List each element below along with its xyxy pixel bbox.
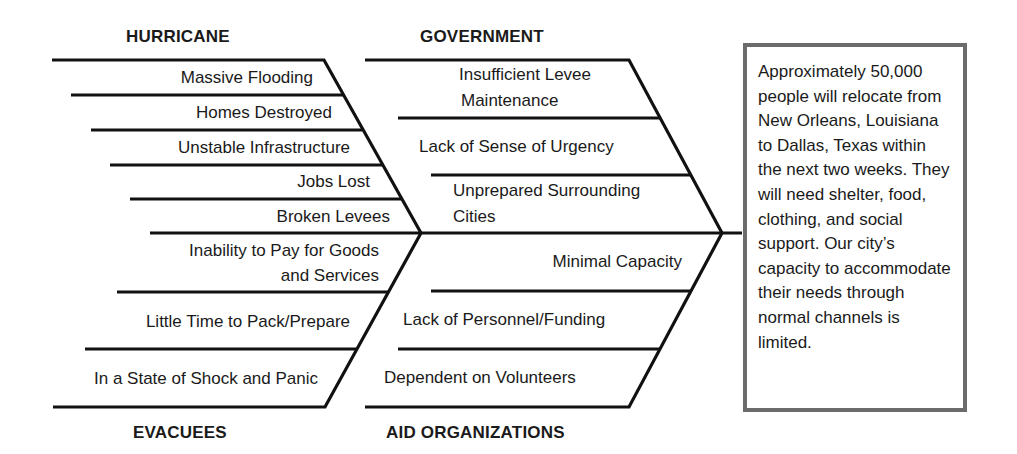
cause-unprepared-cities-line1: Unprepared Surrounding <box>453 180 640 202</box>
category-government: GOVERNMENT <box>420 27 544 47</box>
cause-lack-of-urgency: Lack of Sense of Urgency <box>419 136 614 158</box>
cause-unstable-infrastructure: Unstable Infrastructure <box>178 137 350 159</box>
cause-shock-panic: In a State of Shock and Panic <box>94 368 318 390</box>
effect-box: Approximately 50,000 people will relocat… <box>743 43 967 412</box>
cause-levee-maintenance-line2: Maintenance <box>461 90 558 112</box>
category-evacuees: EVACUEES <box>133 423 227 443</box>
cause-levee-maintenance-line1: Insufficient Levee <box>459 64 591 86</box>
cause-jobs-lost: Jobs Lost <box>297 171 370 193</box>
cause-dependent-volunteers: Dependent on Volunteers <box>384 367 576 389</box>
category-aid-organizations: AID ORGANIZATIONS <box>386 423 565 443</box>
effect-text: Approximately 50,000 people will relocat… <box>747 47 963 355</box>
cause-broken-levees: Broken Levees <box>277 206 390 228</box>
category-hurricane: HURRICANE <box>126 27 230 47</box>
cause-lack-personnel-funding: Lack of Personnel/Funding <box>403 309 605 331</box>
cause-minimal-capacity: Minimal Capacity <box>553 251 682 273</box>
cause-massive-flooding: Massive Flooding <box>181 67 313 89</box>
cause-little-time: Little Time to Pack/Prepare <box>146 311 350 333</box>
cause-homes-destroyed: Homes Destroyed <box>196 102 332 124</box>
cause-unprepared-cities-line2: Cities <box>453 206 496 228</box>
cause-inability-to-pay-line2: and Services <box>281 265 379 287</box>
cause-inability-to-pay-line1: Inability to Pay for Goods <box>189 240 379 262</box>
